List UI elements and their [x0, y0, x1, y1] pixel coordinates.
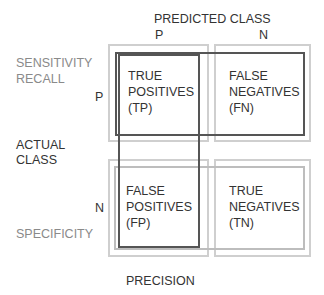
- tp-line1: TRUE: [128, 68, 194, 84]
- fp-line1: FALSE: [126, 183, 192, 199]
- tn-line3: (TN): [229, 215, 300, 231]
- fn-text: FALSE NEGATIVES (FN): [229, 68, 300, 116]
- recall-label: RECALL: [16, 72, 65, 87]
- fp-line3: (FP): [126, 215, 192, 231]
- fn-line2: NEGATIVES: [229, 84, 300, 100]
- predicted-class-label: PREDICTED CLASS: [154, 12, 271, 27]
- actual-negative-label: N: [95, 201, 104, 216]
- tn-line2: NEGATIVES: [229, 199, 300, 215]
- fp-line2: POSITIVES: [126, 199, 192, 215]
- tp-line3: (TP): [128, 100, 194, 116]
- tp-text: TRUE POSITIVES (TP): [128, 68, 194, 116]
- predicted-negative-label: N: [259, 28, 268, 43]
- actual-positive-label: P: [95, 90, 103, 105]
- sensitivity-label: SENSITIVITY: [16, 56, 92, 71]
- actual-class-label-line2: CLASS: [16, 153, 57, 168]
- predicted-positive-label: P: [155, 28, 163, 43]
- tn-line1: TRUE: [229, 183, 300, 199]
- specificity-label: SPECIFICITY: [16, 227, 93, 242]
- precision-label: PRECISION: [126, 274, 195, 289]
- tp-line2: POSITIVES: [128, 84, 194, 100]
- fn-line1: FALSE: [229, 68, 300, 84]
- tn-text: TRUE NEGATIVES (TN): [229, 183, 300, 231]
- fn-line3: (FN): [229, 100, 300, 116]
- fp-text: FALSE POSITIVES (FP): [126, 183, 192, 231]
- actual-class-label-line1: ACTUAL: [16, 138, 65, 153]
